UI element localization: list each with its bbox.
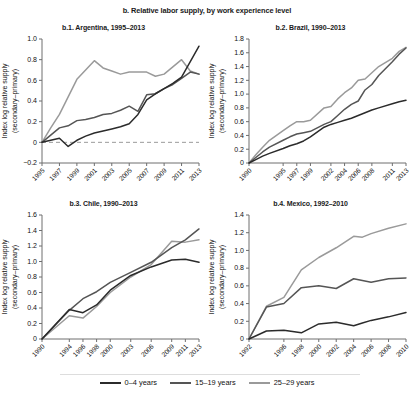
y-tick-label: 0.4 — [234, 132, 244, 139]
y-tick-label: 1.4 — [234, 211, 244, 218]
x-tick-label: 2002 — [319, 167, 335, 183]
svg-text:Index log relative supply: Index log relative supply — [208, 239, 216, 315]
x-tick-label: 1995 — [272, 167, 288, 183]
chart-panel-chile: b.3. Chile, 1990–2013 00.20.40.60.81.01.… — [0, 200, 207, 375]
figure-container: b. Relative labor supply, by work experi… — [0, 0, 414, 408]
x-tick-label: 2003 — [100, 167, 116, 183]
series-line — [42, 72, 199, 142]
y-tick-label: 0.4 — [234, 300, 244, 307]
y-tick-label: 0.4 — [27, 97, 37, 104]
panel-title-argentina: b.1. Argentina, 1995–2013 — [0, 24, 207, 31]
y-axis-label: Index log relative supply(secondary–prim… — [1, 239, 19, 315]
y-tick-label: 0.6 — [27, 289, 37, 296]
y-tick-label: 1.2 — [234, 229, 244, 236]
legend-item-1: 0–4 years — [100, 378, 157, 387]
chart-legend: 0–4 years15–19 years25–29 years — [0, 378, 414, 387]
y-tick-label: 1.0 — [234, 90, 244, 97]
x-tick-label: 2003 — [119, 343, 135, 359]
chart-panel-argentina: b.1. Argentina, 1995–2013 −0.200.20.40.6… — [0, 24, 207, 199]
y-tick-label: 0.8 — [27, 56, 37, 63]
figure-title: b. Relative labor supply, by work experi… — [0, 6, 414, 15]
svg-text:Index log relative supply: Index log relative supply — [208, 63, 216, 139]
series-line — [249, 224, 406, 339]
y-tick-label: 0 — [240, 159, 244, 166]
series-line — [249, 100, 406, 163]
y-tick-label: 1.6 — [234, 49, 244, 56]
x-tick-label: 2010 — [394, 343, 410, 359]
x-tick-label: 2008 — [360, 167, 376, 183]
legend-item-3: 25–29 years — [249, 378, 315, 387]
x-tick-label: 1998 — [290, 343, 306, 359]
y-tick-label: 0.2 — [234, 146, 244, 153]
x-tick-label: 2009 — [152, 167, 168, 183]
y-tick-label: 1.8 — [234, 35, 244, 42]
x-tick-label: 1996 — [272, 343, 288, 359]
chart-panel-mexico: b.4. Mexico, 1992–2010 00.20.40.60.81.01… — [207, 200, 414, 375]
y-tick-label: 0.6 — [27, 77, 37, 84]
x-tick-label: 2013 — [394, 167, 410, 183]
y-tick-label: 1.6 — [27, 211, 37, 218]
x-tick-label: 1999 — [65, 167, 81, 183]
series-line — [249, 278, 406, 339]
x-tick-label: 1996 — [71, 343, 87, 359]
y-tick-label: 1.2 — [27, 242, 37, 249]
x-tick-label: 2004 — [342, 343, 358, 359]
legend-swatch-icon — [170, 382, 191, 384]
x-tick-label: 2011 — [170, 167, 185, 182]
y-tick-label: 1.0 — [234, 247, 244, 254]
y-tick-label: 0 — [240, 335, 244, 342]
series-line — [249, 48, 406, 163]
legend-label: 15–19 years — [195, 378, 236, 387]
x-tick-label: 2002 — [325, 343, 341, 359]
y-tick-label: 0.8 — [27, 273, 37, 280]
x-tick-label: 2013 — [187, 343, 203, 359]
legend-label: 0–4 years — [125, 378, 157, 387]
x-tick-label: 1992 — [237, 343, 253, 359]
chart-svg-b4: 00.20.40.60.81.01.21.4199219961998200020… — [207, 209, 414, 375]
chart-panel-brazil: b.2. Brazil, 1990–2013 00.20.40.60.81.01… — [207, 24, 414, 199]
legend-swatch-icon — [100, 382, 121, 384]
x-tick-label: 2011 — [381, 167, 396, 182]
y-tick-label: 0.2 — [234, 318, 244, 325]
series-line — [42, 46, 199, 146]
y-tick-label: 0.2 — [27, 118, 37, 125]
y-tick-label: 0.8 — [234, 264, 244, 271]
series-line — [42, 240, 199, 339]
svg-text:(secondary–primary): (secondary–primary) — [218, 245, 226, 309]
y-axis-label: Index log relative supply(secondary–prim… — [1, 63, 19, 139]
x-tick-label: 1990 — [237, 167, 253, 183]
chart-svg-b3: 00.20.40.60.81.01.21.41.6199019941996199… — [0, 209, 207, 375]
y-tick-label: 0.6 — [234, 282, 244, 289]
x-tick-label: 1990 — [30, 343, 46, 359]
x-tick-label: 2006 — [359, 343, 375, 359]
y-tick-label: 1.2 — [234, 77, 244, 84]
y-tick-label: 1.4 — [27, 227, 37, 234]
y-tick-label: 0 — [33, 335, 37, 342]
x-tick-label: 1999 — [299, 167, 315, 183]
x-tick-label: 1998 — [85, 343, 101, 359]
x-tick-label: 2006 — [140, 343, 156, 359]
y-tick-label: 0 — [33, 139, 37, 146]
x-tick-label: 2008 — [377, 343, 393, 359]
panel-title-mexico: b.4. Mexico, 1992–2010 — [207, 200, 414, 207]
y-tick-label: 1.4 — [234, 63, 244, 70]
x-tick-label: 1995 — [30, 167, 46, 183]
svg-text:Index log relative supply: Index log relative supply — [1, 63, 9, 139]
y-axis-label: Index log relative supply(secondary–prim… — [208, 63, 226, 139]
panel-title-chile: b.3. Chile, 1990–2013 — [0, 200, 207, 207]
x-tick-label: 2013 — [187, 167, 203, 183]
x-tick-label: 2006 — [347, 167, 363, 183]
legend-item-2: 15–19 years — [170, 378, 236, 387]
legend-label: 25–29 years — [274, 378, 315, 387]
chart-svg-b1: −0.200.20.40.60.81.019951997199920012003… — [0, 33, 207, 199]
x-tick-label: 2011 — [174, 343, 189, 358]
y-tick-label: −0.2 — [23, 159, 37, 166]
panel-title-brazil: b.2. Brazil, 1990–2013 — [207, 24, 414, 31]
y-tick-label: 0.6 — [234, 118, 244, 125]
x-tick-label: 2000 — [99, 343, 115, 359]
x-tick-label: 2004 — [333, 167, 349, 183]
y-tick-label: 0.2 — [27, 320, 37, 327]
x-tick-label: 2001 — [83, 167, 99, 183]
series-line — [249, 312, 406, 339]
y-axis-label: Index log relative supply(secondary–prim… — [208, 239, 226, 315]
